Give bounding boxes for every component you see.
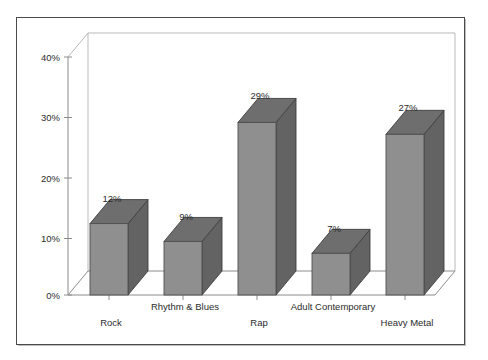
bar-front-face: [312, 253, 350, 295]
bar-value-label-heavy-metal: 27%: [398, 102, 418, 113]
x-category-label-adult-contemporary: Adult Contemporary: [291, 301, 376, 312]
bar-side-face: [424, 110, 444, 295]
x-axis-ticks: [109, 295, 405, 300]
bar-value-label-rock: 12%: [102, 193, 122, 204]
bar-value-label-adult-contemporary: 7%: [327, 223, 341, 234]
bar-rhythm-and-blues[interactable]: [164, 217, 222, 295]
y-tick-label: 30%: [41, 112, 61, 123]
y-tick-label: 10%: [41, 233, 61, 244]
x-category-label-rhythm-and-blues: Rhythm & Blues: [151, 301, 219, 312]
bar-front-face: [238, 122, 276, 295]
bar-rock[interactable]: [90, 200, 148, 295]
bar-value-label-rhythm-and-blues: 9%: [179, 211, 193, 222]
bar-chart-plot: 40% 30% 20% 10% 0% 12%9%29%7%27% RockRhy…: [0, 0, 488, 360]
y-tick-label: 20%: [41, 173, 61, 184]
bar-front-face: [386, 134, 424, 295]
y-tick-label: 40%: [41, 52, 61, 63]
bar-rap[interactable]: [238, 98, 296, 295]
bar-heavy-metal[interactable]: [386, 110, 444, 295]
bar-adult-contemporary[interactable]: [312, 229, 370, 295]
bar-front-face: [164, 241, 202, 295]
y-axis-tick-labels: 40% 30% 20% 10% 0%: [41, 52, 61, 301]
y-tick-label: 0%: [46, 290, 60, 301]
bar-value-label-rap: 29%: [250, 90, 270, 101]
bar-front-face: [90, 224, 128, 295]
bars-layer: [90, 98, 444, 295]
x-category-label-rap: Rap: [250, 317, 267, 328]
x-axis-category-labels: RockRhythm & BluesRapAdult ContemporaryH…: [100, 301, 433, 328]
x-category-label-heavy-metal: Heavy Metal: [381, 317, 434, 328]
bar-side-face: [276, 98, 296, 295]
x-category-label-rock: Rock: [100, 317, 122, 328]
